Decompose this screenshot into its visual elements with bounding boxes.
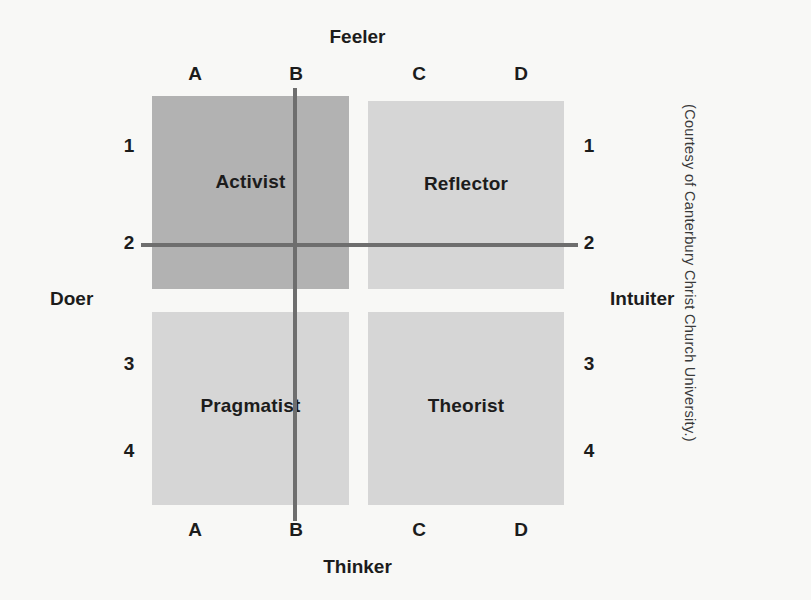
tick-left-1: 1 <box>118 135 140 157</box>
tick-left-4: 4 <box>118 440 140 462</box>
quadrant-pragmatist: Pragmatist <box>152 312 349 505</box>
pole-label-doer: Doer <box>50 288 93 310</box>
tick-bottom-c: C <box>406 519 432 541</box>
axis-line-horizontal <box>141 243 578 247</box>
tick-right-1: 1 <box>578 135 600 157</box>
learning-styles-quadrant-figure: Feeler Thinker Doer Intuiter A B C D A B… <box>0 0 811 600</box>
tick-left-2: 2 <box>118 232 140 254</box>
quadrant-label-activist: Activist <box>215 171 285 193</box>
quadrant-label-reflector: Reflector <box>424 173 508 195</box>
tick-right-4: 4 <box>578 440 600 462</box>
pole-label-feeler: Feeler <box>0 26 715 48</box>
quadrant-theorist: Theorist <box>368 312 564 505</box>
tick-top-a: A <box>182 63 208 85</box>
credit-caption: (Courtesy of Canterbury Christ Church Un… <box>682 104 698 524</box>
axis-line-vertical <box>293 88 297 521</box>
tick-top-d: D <box>508 63 534 85</box>
tick-right-3: 3 <box>578 353 600 375</box>
quadrant-label-pragmatist: Pragmatist <box>200 395 300 417</box>
tick-bottom-a: A <box>182 519 208 541</box>
pole-label-intuiter: Intuiter <box>610 288 674 310</box>
tick-bottom-b: B <box>283 519 309 541</box>
tick-bottom-d: D <box>508 519 534 541</box>
quadrant-label-theorist: Theorist <box>428 395 505 417</box>
tick-top-c: C <box>406 63 432 85</box>
tick-top-b: B <box>283 63 309 85</box>
tick-right-2: 2 <box>578 232 600 254</box>
pole-label-thinker: Thinker <box>0 556 715 578</box>
quadrant-activist: Activist <box>152 96 349 289</box>
tick-left-3: 3 <box>118 353 140 375</box>
quadrant-reflector: Reflector <box>368 101 564 289</box>
